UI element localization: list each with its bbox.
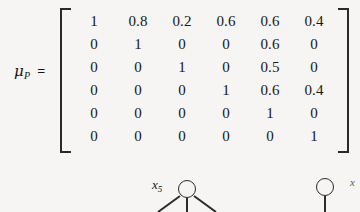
equals-sign: = xyxy=(37,64,45,79)
matrix-cell: 0 xyxy=(134,83,142,98)
matrix-cell: 0 xyxy=(90,60,98,75)
matrix-cell: 0 xyxy=(90,129,98,144)
matrix-cell: 0 xyxy=(222,129,230,144)
graph-node-x5 xyxy=(178,180,196,198)
mu-symbol: μ xyxy=(14,62,24,80)
matrix-cell: 1 xyxy=(266,106,274,121)
matrix-cell: 1 xyxy=(178,60,186,75)
matrix-cell: 0 xyxy=(266,129,274,144)
matrix-cell: 0 xyxy=(222,106,230,121)
matrix-cell: 1 xyxy=(90,14,98,29)
matrix-cell: 0 xyxy=(310,60,318,75)
matrix-cell: 0 xyxy=(310,106,318,121)
graph-node-right xyxy=(316,178,334,196)
matrix-cell: 0 xyxy=(222,60,230,75)
graph-node-label-x5: x5 xyxy=(152,177,162,194)
matrix-cell: 0 xyxy=(178,83,186,98)
matrix-cell: 0.5 xyxy=(260,60,279,75)
edge-left xyxy=(158,196,180,212)
matrix-cell: 1 xyxy=(134,37,142,52)
graph-node-label-right-partial: x xyxy=(350,176,355,188)
matrix-cell: 0.6 xyxy=(260,37,279,52)
matrix-cell: 0.4 xyxy=(304,14,323,29)
matrix-cell: 1 xyxy=(310,129,318,144)
matrix-cell: 0.8 xyxy=(128,14,147,29)
matrix-cell: 0 xyxy=(134,60,142,75)
matrix-cell: 0.6 xyxy=(260,83,279,98)
node-label-subscript: 5 xyxy=(158,184,163,194)
matrix-cell: 0 xyxy=(90,106,98,121)
matrix-grid: 1 0.8 0.2 0.6 0.6 0.4 0 1 0 0 0.6 0 0 0 … xyxy=(72,10,336,148)
matrix-cell: 0.4 xyxy=(304,83,323,98)
matrix-cell: 0 xyxy=(222,37,230,52)
edge-right xyxy=(194,196,216,212)
matrix-cell: 0 xyxy=(90,37,98,52)
matrix-cell: 0 xyxy=(178,129,186,144)
equation-left-hand-side: μP= xyxy=(14,64,45,81)
mu-subscript: P xyxy=(24,70,30,81)
matrix-cell: 0 xyxy=(310,37,318,52)
matrix-cell: 0 xyxy=(178,106,186,121)
matrix-cell: 1 xyxy=(222,83,230,98)
matrix-cell: 0.2 xyxy=(172,14,191,29)
matrix-cell: 0 xyxy=(90,83,98,98)
matrix-cell: 0.6 xyxy=(216,14,235,29)
matrix-cell: 0 xyxy=(134,106,142,121)
matrix-cell: 0 xyxy=(178,37,186,52)
matrix-cell: 0 xyxy=(134,129,142,144)
matrix-bracket-left xyxy=(60,8,71,153)
scanned-page: μP= 1 0.8 0.2 0.6 0.6 0.4 0 1 0 0 0.6 0 … xyxy=(0,0,360,212)
matrix-equation: μP= 1 0.8 0.2 0.6 0.6 0.4 0 1 0 0 0.6 0 … xyxy=(0,0,360,160)
matrix-cell: 0.6 xyxy=(260,14,279,29)
graph-figure: x5 x xyxy=(0,160,360,212)
matrix-bracket-right xyxy=(338,8,349,153)
